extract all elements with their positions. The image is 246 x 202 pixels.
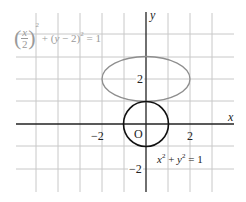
right-paren: ) <box>28 25 35 50</box>
y-axis-label: y <box>150 9 155 21</box>
origin-label: O <box>134 128 143 140</box>
circle-equation: x2 + y2 = 1 <box>157 153 203 165</box>
tick-y-pos2: 2 <box>136 73 144 85</box>
left-paren: ( <box>14 25 21 50</box>
ellipse-equation: (x2)2 + (y − 2)2 = 1 <box>14 22 101 50</box>
tick-y-neg2: −2 <box>128 163 143 175</box>
tick-x-pos2: 2 <box>187 130 193 142</box>
x-axis-label: x <box>228 111 233 123</box>
tick-x-neg2: −2 <box>91 130 104 142</box>
